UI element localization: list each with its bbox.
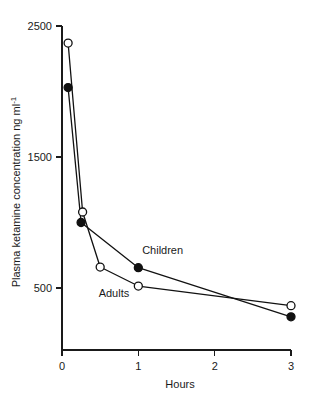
series-adults [64,39,295,310]
x-tick-label-0: 0 [59,360,65,372]
series-annotation-adults: Adults [99,287,130,299]
line-chart-plot: 2500 1500 500 0 1 2 3 Hours Plasma ketam… [0,0,314,398]
y-axis-title-text: Plasma ketamine concentration ng ml [10,104,22,287]
x-tick-label-2: 2 [212,360,218,372]
series-children [64,84,295,321]
series-line-children [68,88,291,317]
y-axis-title-exponent: -1 [9,96,18,104]
y-tick-label-500: 500 [34,282,52,294]
data-point-children-1 [77,219,85,227]
y-axis-title: Plasma ketamine concentration ng ml-1 [9,96,23,287]
data-point-adults-2 [96,263,104,271]
data-point-children-0 [64,84,72,92]
chart-figure: 2500 1500 500 0 1 2 3 Hours Plasma ketam… [0,0,314,398]
x-tick-label-3: 3 [288,360,294,372]
series-layer [64,39,295,321]
data-point-adults-4 [287,302,295,310]
series-annotation-children: Children [142,244,183,256]
x-axis-title: Hours [165,378,195,390]
y-tick-label-2500: 2500 [28,20,52,32]
data-point-children-2 [134,264,142,272]
data-point-adults-0 [64,39,72,47]
data-point-adults-3 [134,282,142,290]
x-tick-label-1: 1 [135,360,141,372]
y-tick-label-1500: 1500 [28,151,52,163]
data-point-adults-1 [79,208,87,216]
y-axis-title-group: Plasma ketamine concentration ng ml-1 [9,96,23,287]
data-point-children-3 [287,313,295,321]
